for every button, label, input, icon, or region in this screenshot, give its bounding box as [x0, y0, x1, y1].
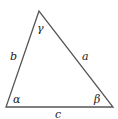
angle-alpha-label: α [13, 93, 21, 106]
side-c-label: c [55, 108, 61, 119]
angle-beta-label: β [93, 93, 100, 106]
triangle-diagram: γ b a α β c [0, 0, 118, 119]
side-a-label: a [82, 50, 89, 63]
side-b-label: b [10, 50, 17, 63]
angle-gamma-label: γ [37, 22, 44, 35]
